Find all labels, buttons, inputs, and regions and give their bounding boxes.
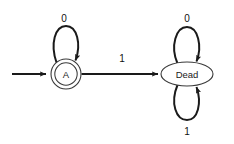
edge-label-a-to-dead-1: 1	[119, 53, 125, 64]
state-a-label: A	[63, 69, 70, 80]
edge-label-dead-self-0: 0	[184, 13, 190, 24]
state-dead-label: Dead	[176, 69, 199, 80]
transition-dead-self-loop-1	[174, 85, 199, 120]
state-node-a[interactable]: A	[51, 59, 81, 89]
fsm-svg: 0 1 0 1 A Dead	[0, 0, 234, 144]
transition-a-self-loop-0	[54, 26, 79, 63]
state-node-dead[interactable]: Dead	[161, 62, 213, 86]
state-diagram-canvas: 0 1 0 1 A Dead	[0, 0, 234, 144]
edge-label-a-self-0: 0	[61, 13, 67, 24]
edge-label-dead-self-1: 1	[184, 126, 190, 137]
transition-dead-self-loop-0	[174, 27, 199, 64]
